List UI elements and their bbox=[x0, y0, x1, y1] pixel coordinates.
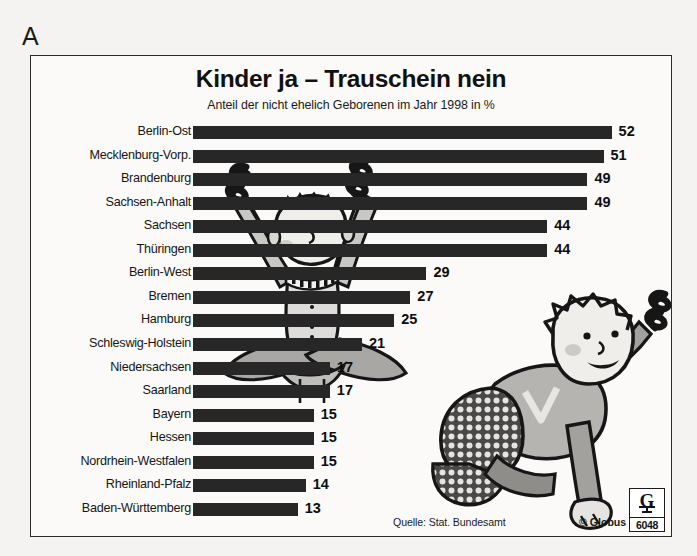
plot-area: Berlin-Ost52Mecklenburg-Vorp.51Brandenbu… bbox=[31, 124, 672, 524]
bar bbox=[193, 409, 314, 422]
bar bbox=[193, 291, 410, 304]
bar bbox=[193, 338, 362, 351]
bar-row: Bremen27 bbox=[31, 291, 672, 304]
bar-label-wrap: Saarland bbox=[31, 385, 191, 398]
bar bbox=[193, 126, 612, 139]
logo-number: 6048 bbox=[630, 518, 664, 531]
bar-category-label: Mecklenburg-Vorp. bbox=[31, 148, 191, 162]
bar bbox=[193, 503, 298, 516]
bar-category-label: Thüringen bbox=[31, 242, 191, 256]
bar-category-label: Bayern bbox=[31, 407, 191, 421]
bar bbox=[193, 479, 306, 492]
bar-label-wrap: Sachsen bbox=[31, 220, 191, 233]
bar bbox=[193, 173, 587, 186]
bar-category-label: Brandenburg bbox=[31, 171, 191, 185]
bar-label-wrap: Hessen bbox=[31, 432, 191, 445]
bar-row: Hamburg25 bbox=[31, 314, 672, 327]
bar-value-label: 49 bbox=[594, 194, 610, 210]
bar-category-label: Schleswig-Holstein bbox=[31, 336, 191, 350]
bar-value-label: 29 bbox=[433, 264, 449, 280]
bar-value-label: 15 bbox=[321, 429, 337, 445]
bar-category-label: Nordrhein-Westfalen bbox=[31, 454, 191, 468]
bar-label-wrap: Berlin-West bbox=[31, 267, 191, 280]
bar-label-wrap: Nordrhein-Westfalen bbox=[31, 456, 191, 469]
bar-row: Saarland17 bbox=[31, 385, 672, 398]
bar-value-label: 13 bbox=[305, 500, 321, 516]
globus-logo: G 6048 bbox=[629, 488, 665, 532]
chart-image-root: { "annotation": { "letter": "A" }, "head… bbox=[0, 0, 697, 556]
bar-value-label: 15 bbox=[321, 406, 337, 422]
bar-category-label: Niedersachsen bbox=[31, 360, 191, 374]
bar bbox=[193, 314, 394, 327]
bar-label-wrap: Brandenburg bbox=[31, 173, 191, 186]
bar-category-label: Hessen bbox=[31, 430, 191, 444]
bar-value-label: 49 bbox=[594, 170, 610, 186]
bar-category-label: Saarland bbox=[31, 383, 191, 397]
bar-category-label: Berlin-Ost bbox=[31, 124, 191, 138]
bar-category-label: Bremen bbox=[31, 289, 191, 303]
bar-category-label: Baden-Württemberg bbox=[31, 501, 191, 515]
copyright-note: © Globus bbox=[579, 516, 626, 528]
bar-row: Niedersachsen17 bbox=[31, 362, 672, 375]
bar-label-wrap: Hamburg bbox=[31, 314, 191, 327]
globe-icon: G bbox=[630, 489, 664, 518]
bar-label-wrap: Bremen bbox=[31, 291, 191, 304]
bar bbox=[193, 220, 547, 233]
bar bbox=[193, 244, 547, 257]
bar-category-label: Berlin-West bbox=[31, 265, 191, 279]
bar-row: Mecklenburg-Vorp.51 bbox=[31, 150, 672, 163]
bar-label-wrap: Bayern bbox=[31, 409, 191, 422]
bar-row: Brandenburg49 bbox=[31, 173, 672, 186]
bar-row: Rheinland-Pfalz14 bbox=[31, 479, 672, 492]
bar-row: Sachsen-Anhalt49 bbox=[31, 197, 672, 210]
bar-row: Sachsen44 bbox=[31, 220, 672, 233]
bar-row: Schleswig-Holstein21 bbox=[31, 338, 672, 351]
bar-value-label: 15 bbox=[321, 453, 337, 469]
bar-label-wrap: Thüringen bbox=[31, 244, 191, 257]
bar-row: Hessen15 bbox=[31, 432, 672, 445]
bar-category-label: Rheinland-Pfalz bbox=[31, 477, 191, 491]
chart-frame: Kinder ja – Trauschein nein Anteil der n… bbox=[30, 55, 672, 537]
bar-label-wrap: Niedersachsen bbox=[31, 362, 191, 375]
bar-label-wrap: Sachsen-Anhalt bbox=[31, 197, 191, 210]
bar-value-label: 52 bbox=[619, 123, 635, 139]
bar-category-label: Sachsen-Anhalt bbox=[31, 195, 191, 209]
bar-value-label: 44 bbox=[554, 241, 570, 257]
chart-subtitle: Anteil der nicht ehelich Geborenen im Ja… bbox=[31, 98, 671, 112]
bar-value-label: 21 bbox=[369, 335, 385, 351]
bar-label-wrap: Rheinland-Pfalz bbox=[31, 479, 191, 492]
bar-row: Bayern15 bbox=[31, 409, 672, 422]
globe-icon-svg: G bbox=[636, 491, 658, 515]
bar-row: Berlin-West29 bbox=[31, 267, 672, 280]
bar bbox=[193, 197, 587, 210]
bar-value-label: 14 bbox=[313, 476, 329, 492]
bar bbox=[193, 456, 314, 469]
bar bbox=[193, 150, 604, 163]
bar bbox=[193, 362, 330, 375]
chart-title: Kinder ja – Trauschein nein bbox=[31, 65, 671, 93]
bar-value-label: 25 bbox=[401, 311, 417, 327]
source-note: Quelle: Stat. Bundesamt bbox=[393, 516, 506, 528]
bar bbox=[193, 267, 426, 280]
bar bbox=[193, 385, 330, 398]
bar-label-wrap: Baden-Württemberg bbox=[31, 503, 191, 516]
bar-category-label: Sachsen bbox=[31, 218, 191, 232]
bar-value-label: 17 bbox=[337, 382, 353, 398]
annotation-letter: A bbox=[22, 22, 39, 51]
bar-value-label: 17 bbox=[337, 359, 353, 375]
bar-row: Berlin-Ost52 bbox=[31, 126, 672, 139]
bar-value-label: 51 bbox=[611, 147, 627, 163]
bar-label-wrap: Schleswig-Holstein bbox=[31, 338, 191, 351]
bar-category-label: Hamburg bbox=[31, 312, 191, 326]
bar-row: Nordrhein-Westfalen15 bbox=[31, 456, 672, 469]
bar-label-wrap: Berlin-Ost bbox=[31, 126, 191, 139]
bar-row: Baden-Württemberg13 bbox=[31, 503, 672, 516]
bar-label-wrap: Mecklenburg-Vorp. bbox=[31, 150, 191, 163]
bar-row: Thüringen44 bbox=[31, 244, 672, 257]
bar-value-label: 44 bbox=[554, 217, 570, 233]
bar bbox=[193, 432, 314, 445]
bar-value-label: 27 bbox=[417, 288, 433, 304]
